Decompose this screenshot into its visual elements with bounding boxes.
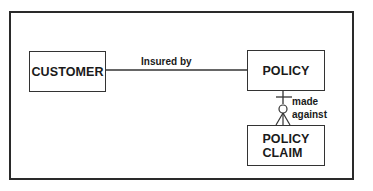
entity-policy[interactable]: POLICY: [247, 50, 325, 91]
entity-label: POLICY: [262, 64, 309, 78]
entity-customer[interactable]: CUSTOMER: [29, 51, 106, 92]
relationship-label-made: made: [292, 96, 318, 108]
relationship-label-insured-by: Insured by: [141, 56, 192, 68]
entity-label: POLICY CLAIM: [262, 132, 309, 160]
entity-label: CUSTOMER: [31, 65, 103, 79]
entity-policy-claim[interactable]: POLICY CLAIM: [247, 125, 325, 166]
relationship-label-against: against: [292, 109, 327, 121]
